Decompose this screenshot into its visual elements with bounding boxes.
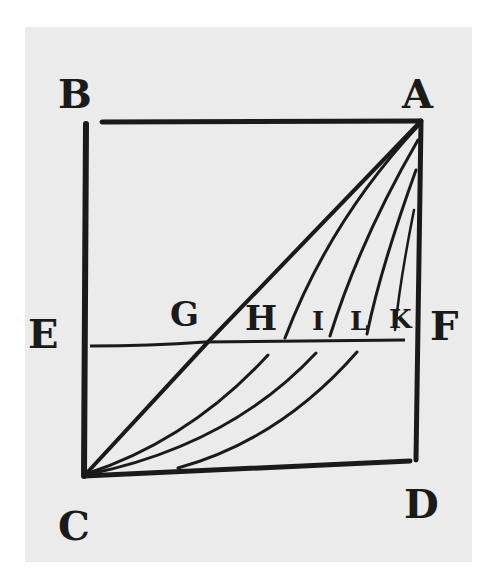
label-L: L [350,306,368,336]
label-I: I [312,306,324,336]
label-G: G [170,294,199,334]
geometric-figure: B A E F C D G H I L K [0,0,492,582]
label-B: B [58,70,92,117]
line-EF [90,340,405,346]
line-AB [102,121,421,122]
label-H: H [245,298,277,338]
label-A: A [401,70,434,117]
curve-ALC [178,170,416,468]
label-E: E [28,310,59,357]
label-C: C [58,502,90,549]
line-BC [84,124,86,476]
label-K: K [389,304,413,334]
label-F: F [430,302,458,349]
label-D: D [404,480,439,527]
